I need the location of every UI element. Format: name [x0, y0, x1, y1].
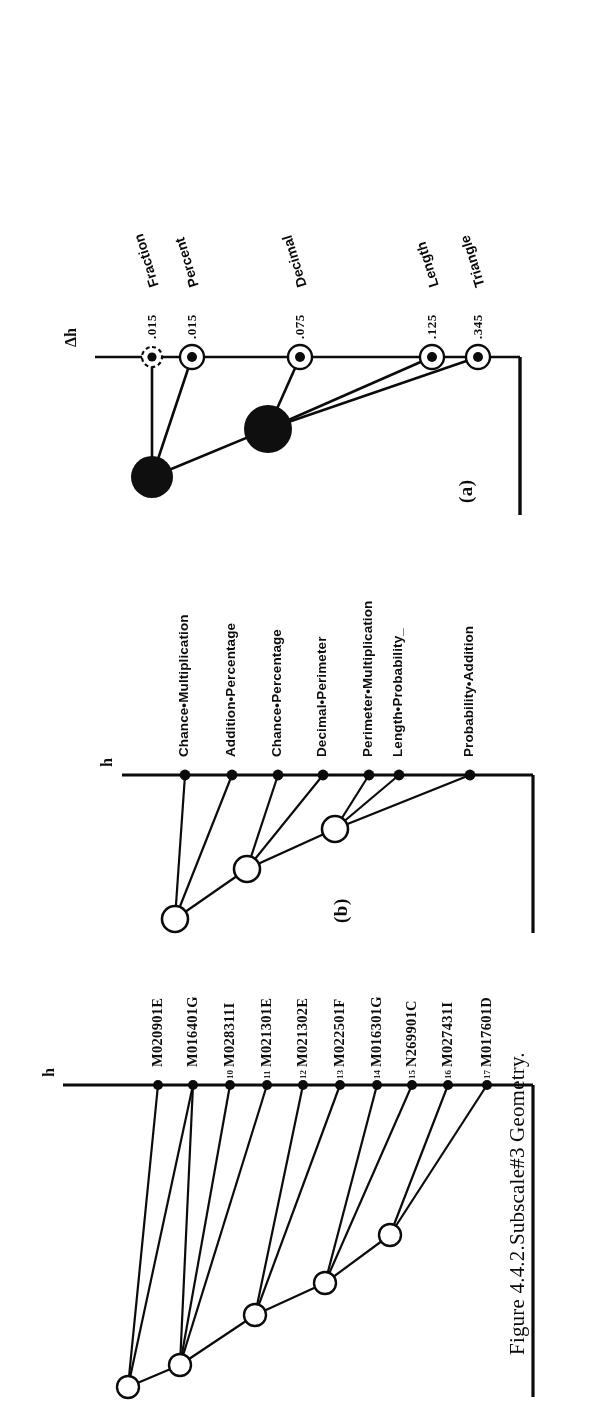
leaf-code: M021302E: [294, 998, 311, 1067]
leaf-index: 16: [443, 1070, 453, 1079]
leaf-label: Probability•Addition: [461, 626, 476, 757]
leaf-index: 13: [335, 1070, 345, 1079]
panel-pair-labels: h (b) Chance•Multiplication Addition•Per…: [0, 547, 601, 947]
leaf-code: M022501F: [331, 999, 348, 1067]
leaf-distance: .015: [184, 314, 200, 339]
leaf-index: 10: [225, 1070, 235, 1079]
leaf-label: Chance•Percentage: [269, 629, 284, 757]
panel-a-links: [152, 357, 478, 477]
panel-a-axis-label: Δh: [62, 328, 80, 347]
panel-b-internal-nodes: [162, 816, 348, 932]
leaf-index: 12: [298, 1070, 308, 1079]
leaf-code: M028311I: [221, 1003, 238, 1067]
leaf-label: Addition•Percentage: [223, 623, 238, 757]
leaf-code: M020901E: [149, 998, 166, 1067]
leaf-index: 11: [262, 1070, 272, 1079]
panel-b-tag: (b): [330, 898, 352, 923]
leaf-distance: .015: [144, 314, 160, 339]
leaf-label: Chance•Multiplication: [176, 614, 191, 757]
leaf-label: Perimeter•Multiplication: [360, 601, 375, 757]
leaf-code: M021301E: [258, 998, 275, 1067]
panel-b-links: [175, 775, 470, 919]
leaf-code: M017601D: [478, 997, 495, 1067]
leaf-distance: .345: [470, 314, 486, 339]
panel-c-axis-label: h: [40, 1068, 58, 1077]
panel-a-tag: (a): [455, 479, 477, 503]
leaf-index: 17: [482, 1070, 492, 1079]
leaf-code: M016301G: [368, 996, 385, 1067]
panel-b-axis-label: h: [98, 758, 116, 767]
figure-caption: Figure 4.4.2.Subscale#3 Geometry.: [505, 1052, 530, 1355]
panel-c-internal-nodes: [117, 1224, 401, 1398]
leaf-code: N269901C: [403, 1000, 420, 1067]
leaf-index: 15: [407, 1070, 417, 1079]
leaf-distance: .075: [292, 314, 308, 339]
leaf-index: 14: [372, 1070, 382, 1079]
panel-topic-tree: Δh (a) .015 .015 .075 .125 .345 Fraction…: [0, 105, 601, 525]
leaf-label: Decimal•Perimeter: [314, 637, 329, 758]
leaf-code: M027431I: [439, 1002, 456, 1067]
leaf-label: Length•Probability_: [390, 628, 405, 757]
leaf-distance: .125: [424, 314, 440, 339]
figure-canvas: h M020901E M016401G M028311I M021301E M0…: [0, 0, 601, 1415]
panel-b-tree: [0, 547, 601, 947]
panel-c-links: [128, 1085, 487, 1387]
leaf-code: M016401G: [184, 996, 201, 1067]
